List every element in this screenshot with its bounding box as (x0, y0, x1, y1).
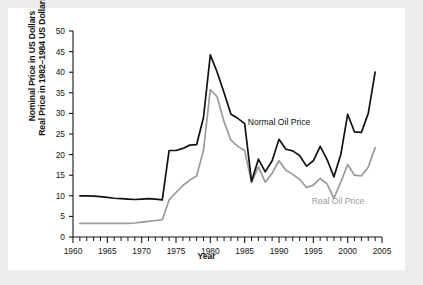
y-tick-label: 10 (56, 191, 66, 201)
y-tick-label: 30 (56, 108, 66, 118)
series-label-normal-oil-price: Normal Oil Price (248, 117, 311, 127)
y-tick-label: 20 (56, 150, 66, 160)
series-line-normal-oil-price (80, 55, 375, 200)
plot-area: 05101520253035404550 1960196519701975198… (8, 8, 405, 270)
y-tick-label: 15 (56, 170, 66, 180)
y-tick-label: 45 (56, 47, 66, 57)
y-tick-group: 05101520253035404550 (56, 26, 73, 242)
x-axis-label: Year (8, 251, 405, 261)
series-label-real-oil-price: Real Oil Price (312, 196, 365, 206)
x-minor-tick-group (80, 237, 375, 241)
y-tick-label: 0 (60, 232, 65, 242)
page-root: Nominal Price in US Dollars Real Price i… (0, 0, 423, 285)
y-tick-label: 35 (56, 88, 66, 98)
y-tick-label: 40 (56, 67, 66, 77)
y-tick-label: 5 (60, 211, 65, 221)
y-tick-label: 25 (56, 129, 66, 139)
oil-price-chart: Nominal Price in US Dollars Real Price i… (8, 8, 405, 270)
figure-card: Nominal Price in US Dollars Real Price i… (8, 8, 405, 270)
y-tick-label: 50 (56, 26, 66, 36)
y-axis-label-line2: Real Price in 1982–1984 US Dollars (38, 0, 48, 136)
y-axis-label: Nominal Price in US Dollars Real Price i… (26, 0, 50, 156)
